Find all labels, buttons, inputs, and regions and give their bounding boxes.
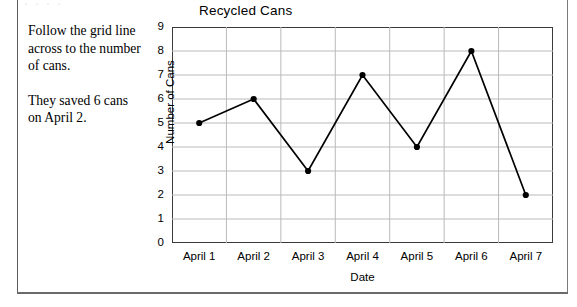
horizontal-gridlines xyxy=(172,27,553,219)
instructions-text-block: Follow the grid line across to the numbe… xyxy=(28,22,143,127)
y-axis-title: Number of Cans xyxy=(164,60,176,144)
x-axis-tick-april-5: April 5 xyxy=(390,250,444,262)
x-axis-tick-april-2: April 2 xyxy=(226,250,280,262)
y-axis-tick-8: 8 xyxy=(142,45,164,57)
y-axis-tick-3: 3 xyxy=(142,165,164,177)
y-axis-tick-9: 9 xyxy=(142,21,164,33)
data-point-april-1 xyxy=(196,120,202,126)
y-axis-tick-7: 7 xyxy=(142,69,164,81)
data-point-april-3 xyxy=(305,168,311,174)
worksheet-border-left xyxy=(17,0,18,294)
worksheet-page: · · · · Follow the grid line across to t… xyxy=(0,0,577,307)
data-point-april-6 xyxy=(468,48,474,54)
x-axis-tick-april-7: April 7 xyxy=(499,250,553,262)
y-axis-tick-2: 2 xyxy=(142,189,164,201)
vertical-gridlines xyxy=(226,27,498,243)
instruction-paragraph-1: Follow the grid line across to the numbe… xyxy=(28,22,143,75)
worksheet-border-right xyxy=(567,0,568,294)
y-axis-tick-6: 6 xyxy=(142,93,164,105)
data-point-april-7 xyxy=(523,192,529,198)
y-axis-tick-0: 0 xyxy=(142,237,164,249)
x-axis-tick-april-6: April 6 xyxy=(444,250,498,262)
x-axis-tick-april-1: April 1 xyxy=(172,250,226,262)
x-axis-title: Date xyxy=(172,271,553,283)
data-point-april-5 xyxy=(414,144,420,150)
data-point-april-4 xyxy=(359,72,365,78)
y-axis-tick-4: 4 xyxy=(142,141,164,153)
y-axis-tick-5: 5 xyxy=(142,117,164,129)
chart-title: Recycled Cans xyxy=(199,3,292,18)
x-axis-tick-april-3: April 3 xyxy=(281,250,335,262)
x-axis-tick-april-4: April 4 xyxy=(335,250,389,262)
instruction-paragraph-2: They saved 6 cans on April 2. xyxy=(28,92,143,127)
line-chart-plot xyxy=(172,27,553,243)
y-axis-tick-1: 1 xyxy=(142,213,164,225)
worksheet-border-bottom xyxy=(17,292,568,294)
data-point-april-2 xyxy=(251,96,257,102)
